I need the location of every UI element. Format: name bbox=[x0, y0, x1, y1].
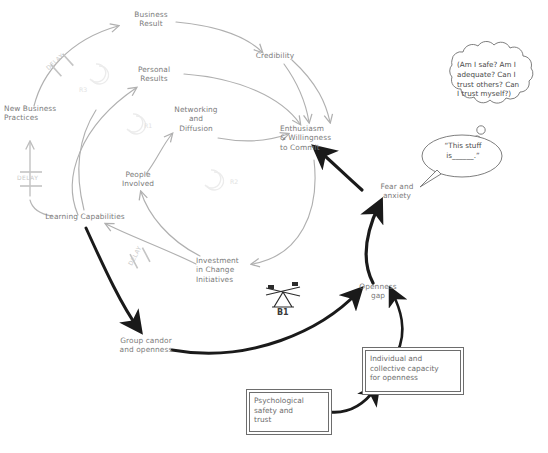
node-openness-gap: Openness gap bbox=[350, 282, 406, 301]
speech-bubble-text: “This stuff is______.” bbox=[432, 141, 494, 161]
node-people-involved: People Involved bbox=[108, 170, 168, 189]
loop-label-r2: R2 bbox=[230, 178, 238, 185]
thought-tail-bubble-1 bbox=[477, 126, 485, 134]
thought-bubble-text: (Am I safe? Am I adequate? Can I trust o… bbox=[457, 60, 531, 99]
node-learning-capabilities: Learning Capabilities bbox=[36, 212, 134, 221]
loop-label-r3: R3 bbox=[79, 86, 87, 93]
node-networking-diffusion: Networking and Diffusion bbox=[168, 105, 224, 133]
node-personal-results: Personal Results bbox=[120, 65, 188, 84]
delay-label-left: DELAY bbox=[17, 174, 38, 181]
node-fear-and-anxiety: Fear and anxiety bbox=[370, 182, 424, 201]
box-individual-collective-capacity: Individual and collective capacity for o… bbox=[362, 347, 464, 395]
loop-label-r1: R1 bbox=[144, 122, 152, 129]
box-capacity-label: Individual and collective capacity for o… bbox=[370, 354, 458, 383]
node-investment-in-change: Investment in Change Initiatives bbox=[196, 256, 258, 284]
node-group-candor: Group candor and openness bbox=[108, 336, 184, 355]
box-safety-label: Psychological safety and trust bbox=[254, 396, 326, 425]
node-new-business-practices: New Business Practices bbox=[4, 104, 78, 123]
node-credibility: Credibility bbox=[240, 51, 310, 60]
box-psychological-safety: Psychological safety and trust bbox=[246, 389, 332, 435]
diagram-canvas: Business Result Credibility Personal Res… bbox=[0, 0, 548, 453]
node-business-result: Business Result bbox=[116, 10, 186, 29]
balance-label-b1: B1 bbox=[277, 308, 289, 317]
node-enthusiasm: Enthusiasm & Willingness to Commit bbox=[280, 124, 348, 152]
